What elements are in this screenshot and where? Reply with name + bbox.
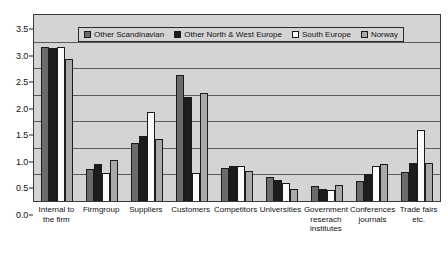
bar <box>266 177 274 201</box>
legend-item-label: South Europe <box>302 30 351 39</box>
x-axis-label: Internal to the firm <box>34 205 79 275</box>
legend-item: Other North & West Europe <box>174 30 282 39</box>
bar <box>229 166 237 201</box>
bar <box>311 186 319 201</box>
bar <box>110 160 118 201</box>
bar <box>221 168 229 201</box>
legend-item-label: Norway <box>371 30 398 39</box>
bar <box>319 189 327 201</box>
legend-swatch-south-europe <box>292 31 299 38</box>
chart-legend: Other ScandinavianOther North & West Eur… <box>78 27 404 42</box>
bar-group <box>34 15 79 201</box>
bar <box>335 185 343 201</box>
bar <box>290 189 298 201</box>
bar <box>401 172 409 201</box>
x-axis-label: Competitors <box>213 205 258 275</box>
bar-group <box>305 15 350 201</box>
legend-item: South Europe <box>292 30 351 39</box>
bar <box>237 166 245 201</box>
x-axis-label: Government reserach institutes <box>303 205 349 275</box>
bar <box>41 47 49 201</box>
bar <box>327 190 335 201</box>
legend-item-label: Other Scandinavian <box>94 30 164 39</box>
bar <box>364 174 372 201</box>
bar-group <box>169 15 214 201</box>
bar <box>49 48 57 201</box>
bar-chart: 3.53.02.52.01.51.00.50.0 Other Scandinav… <box>0 0 448 280</box>
y-axis: 3.53.02.52.01.51.00.50.0 <box>0 14 33 203</box>
bar <box>184 97 192 201</box>
bar <box>57 47 65 201</box>
bar <box>86 169 94 201</box>
y-axis-tick-label: 0.5 <box>16 183 28 193</box>
x-axis-label: Conferences journals <box>349 205 396 275</box>
bar <box>147 112 155 201</box>
bar <box>372 166 380 201</box>
plot-area <box>33 14 441 202</box>
y-axis-tick-label: 0.0 <box>16 210 28 220</box>
bar-group <box>260 15 305 201</box>
bar <box>176 75 184 201</box>
bar <box>274 180 282 201</box>
x-axis-label: Customers <box>168 205 213 275</box>
bar <box>65 59 73 201</box>
bar-group <box>79 15 124 201</box>
bar <box>155 139 163 201</box>
bar <box>131 143 139 201</box>
y-axis-tick-label: 1.0 <box>16 157 28 167</box>
bar <box>409 163 417 201</box>
y-axis-tick-label: 1.5 <box>16 130 28 140</box>
bar-group <box>124 15 169 201</box>
bar <box>245 171 253 201</box>
bar-group <box>214 15 259 201</box>
x-axis-label: Universities <box>258 205 303 275</box>
bar <box>356 181 364 201</box>
x-axis-label: Firmgroup <box>79 205 124 275</box>
y-axis-tick-label: 3.5 <box>16 24 28 34</box>
bar <box>94 164 102 201</box>
bar-group <box>350 15 395 201</box>
bar-groups <box>34 15 440 201</box>
y-axis-tick-label: 2.0 <box>16 104 28 114</box>
x-axis-label: Suppliers <box>124 205 169 275</box>
bar <box>192 173 200 201</box>
legend-swatch-norway <box>361 31 368 38</box>
bar <box>200 93 208 201</box>
bar <box>282 183 290 201</box>
legend-swatch-other-scandinavian <box>84 31 91 38</box>
legend-swatch-other-north-west-europe <box>174 31 181 38</box>
y-axis-tick-label: 2.5 <box>16 77 28 87</box>
y-axis-tick-mark <box>29 215 33 216</box>
x-axis-label: Trade fairs etc. <box>396 205 441 275</box>
bar <box>139 136 147 201</box>
legend-item: Other Scandinavian <box>84 30 164 39</box>
bar-group <box>395 15 440 201</box>
bar <box>417 130 425 201</box>
x-axis-labels: Internal to the firmFirmgroupSuppliersCu… <box>34 205 441 275</box>
bar <box>102 173 110 201</box>
bar <box>425 163 433 201</box>
legend-item: Norway <box>361 30 398 39</box>
y-axis-tick-label: 3.0 <box>16 51 28 61</box>
bar <box>380 164 388 201</box>
legend-item-label: Other North & West Europe <box>184 30 282 39</box>
